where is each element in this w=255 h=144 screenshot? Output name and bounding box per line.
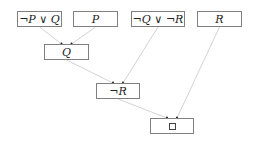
node-neg-p-or-q: ¬P ∨ Q [17,11,62,27]
node-p: P [73,11,118,27]
edge-line [72,27,96,44]
node-label: ¬Q ∨ ¬R [133,13,184,26]
edge-line [177,27,220,118]
node-label: ¬R [109,85,127,98]
empty-clause-box-icon [169,123,176,130]
node-label: P [92,13,99,26]
node-neg-r: ¬R [96,83,140,99]
edge-line [67,60,114,83]
edge-line [40,27,62,44]
node-empty-clause [150,118,194,134]
edge-line [118,99,167,118]
node-q: Q [44,44,89,60]
node-label: Q [62,46,71,59]
node-neg-q-or-neg-r: ¬Q ∨ ¬R [131,11,185,27]
node-r: R [197,11,242,27]
edge-line [123,27,158,83]
node-label: R [215,13,223,26]
node-label: ¬P ∨ Q [19,13,60,26]
